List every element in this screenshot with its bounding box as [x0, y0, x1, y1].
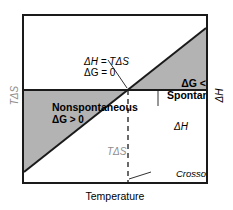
crossover-leader-line: [129, 172, 151, 179]
spontaneous-annotation: ΔG < 0 Spontaneous: [167, 78, 208, 102]
tds-curve-label: TΔS: [107, 146, 127, 157]
plot-area: ΔH = TΔS ΔG = 0 Nonspontaneous ΔG > 0 ΔG…: [22, 14, 208, 184]
y-axis-right-title: ΔH: [214, 76, 225, 116]
thermodynamics-chart: ΔH = TΔS ΔG = 0 Nonspontaneous ΔG > 0 ΔG…: [0, 0, 233, 210]
nonspontaneous-annotation: Nonspontaneous ΔG > 0: [52, 102, 138, 126]
y-axis-left-title: TΔS: [9, 76, 20, 116]
spontaneous-line1: ΔG < 0: [181, 77, 208, 89]
equality-line2: ΔG = 0: [84, 67, 115, 78]
equality-annotation: ΔH = TΔS ΔG = 0: [84, 56, 129, 78]
nonspontaneous-line2: ΔG > 0: [52, 114, 84, 125]
spontaneous-line2: Spontaneous: [167, 89, 208, 101]
x-axis-title: Temperature: [22, 190, 208, 202]
dh-curve-label: ΔH: [174, 121, 188, 132]
crossover-annotation: Crossover T = 352 K: [176, 168, 208, 184]
equality-line1: ΔH = TΔS: [84, 56, 129, 67]
nonspontaneous-line1: Nonspontaneous: [52, 101, 138, 113]
crossover-line2: = 352 K: [176, 180, 208, 184]
crossover-line1: Crossover T: [176, 168, 208, 179]
